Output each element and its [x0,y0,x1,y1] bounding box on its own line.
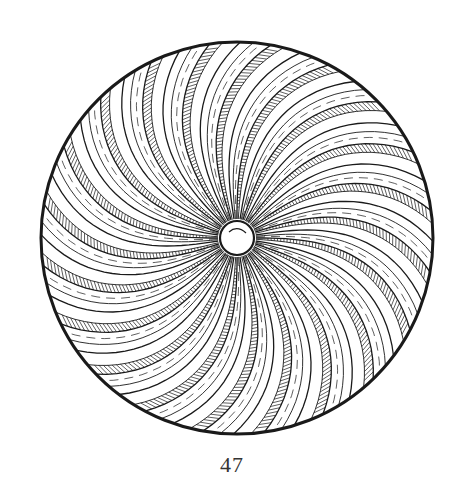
figure-number: 47 [0,452,464,478]
radial-disc-drawing [0,0,464,504]
diatom-illustration [0,0,464,504]
central-boss [220,221,254,255]
